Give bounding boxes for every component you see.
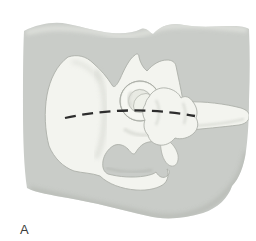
figure-panel: A bbox=[0, 0, 256, 241]
hip-anatomy-illustration bbox=[0, 0, 256, 241]
panel-label: A bbox=[20, 223, 29, 237]
